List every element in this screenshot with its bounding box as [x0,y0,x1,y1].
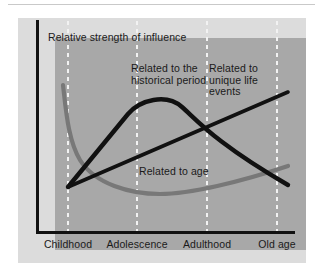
gridline-adolescence [136,21,138,231]
x-tick-label-childhood: Childhood [44,238,92,250]
x-tick-label-adolescence: Adolescence [106,238,167,250]
x-axis-line [36,231,295,234]
chart-figure: Relative strength of influence Related t… [0,0,323,274]
chart-panel [18,18,306,263]
axis-title: Relative strength of influence [48,31,186,43]
y-axis-line [36,20,39,234]
curve-label-unique-life-events: Related to unique life events [209,63,258,98]
top-divider-rule [8,4,315,5]
gridline-childhood [67,21,69,231]
x-tick-label-old-age: Old age [258,238,295,250]
curve-label-related-to-age: Related to age [139,166,209,178]
gridline-adulthood [206,21,208,231]
curve-label-historical-period: Related to the historical period [131,63,206,86]
x-tick-label-adulthood: Adulthood [183,238,231,250]
gridline-old-age [276,21,278,231]
